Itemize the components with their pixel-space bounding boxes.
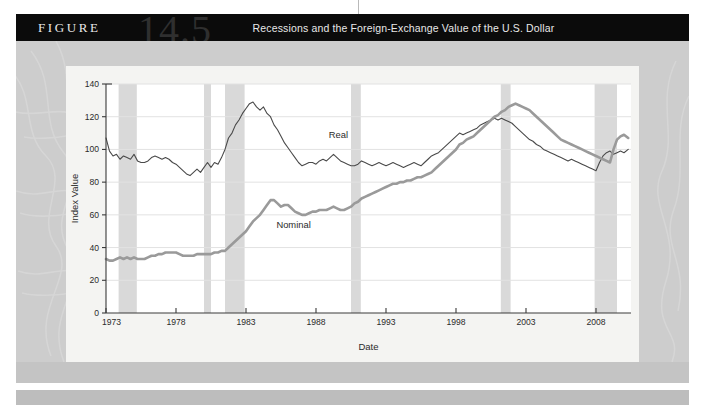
page-bottom-rule (16, 390, 689, 405)
series-annotation-nominal: Nominal (276, 219, 310, 230)
series-annotation-real: Real (329, 129, 348, 140)
y-tick-label: 20 (89, 275, 99, 285)
recession-band (119, 84, 137, 313)
line-chart: 0204060801001201401973197819831988199319… (66, 66, 639, 362)
y-axis-title: Index Value (69, 174, 80, 223)
x-tick-label: 2008 (586, 317, 605, 327)
x-tick-label: 1978 (166, 317, 185, 327)
x-tick-label: 1998 (446, 317, 465, 327)
x-tick-label: 1973 (102, 317, 121, 327)
x-tick-label: 1983 (236, 317, 255, 327)
y-tick-label: 100 (85, 144, 100, 154)
x-tick-label: 1988 (306, 317, 325, 327)
y-tick-label: 140 (85, 79, 100, 89)
figure-header-bar: FIGURE 14.5 Recessions and the Foreign-E… (16, 14, 689, 41)
figure-word: FIGURE (38, 20, 101, 36)
recession-band (351, 84, 361, 313)
figure-number: 14.5 (138, 14, 212, 41)
chart-card: 0204060801001201401973197819831988199319… (66, 66, 639, 362)
recession-band (204, 84, 211, 313)
recession-band (595, 84, 617, 313)
backdrop-bottom-band (16, 362, 689, 383)
x-tick-label: 1993 (376, 317, 395, 327)
figure-title: Recessions and the Foreign-Exchange Valu… (253, 22, 555, 34)
y-tick-label: 80 (89, 177, 99, 187)
figure-page: FIGURE 14.5 Recessions and the Foreign-E… (0, 0, 703, 405)
x-tick-label: 2003 (516, 317, 535, 327)
plot-background (106, 84, 631, 313)
y-tick-label: 60 (89, 210, 99, 220)
chart-plot-area: 0204060801001201401973197819831988199319… (66, 66, 639, 362)
recession-band (225, 84, 245, 313)
y-tick-label: 40 (89, 243, 99, 253)
y-tick-label: 0 (94, 308, 99, 318)
y-ticks-group: 020406080100120140 (85, 79, 106, 318)
y-tick-label: 120 (85, 112, 100, 122)
x-axis-title: Date (358, 341, 378, 352)
